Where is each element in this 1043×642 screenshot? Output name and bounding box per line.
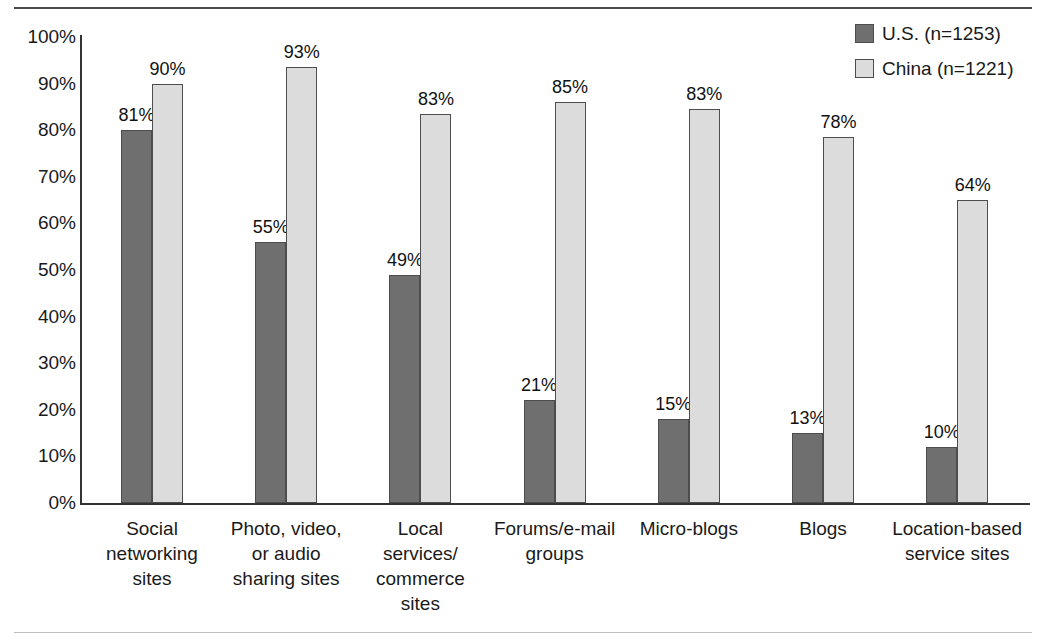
bar-us xyxy=(255,242,286,503)
bar-us xyxy=(389,275,420,503)
category-label: Social networking sites xyxy=(77,516,227,591)
bar-china xyxy=(689,109,720,503)
y-tick-label: 30% xyxy=(4,353,76,372)
y-tick-label: 0% xyxy=(4,493,76,512)
y-tick-label: 40% xyxy=(4,307,76,326)
bar-value-label: 64% xyxy=(943,176,1002,194)
bar-china xyxy=(152,84,183,503)
legend-item: China (n=1221) xyxy=(855,59,1014,78)
category-label: Blogs xyxy=(748,516,898,541)
chart-legend: U.S. (n=1253)China (n=1221) xyxy=(855,24,1014,94)
bar-chart-figure: 100%90%80%70%60%50%40%30%20%10%0% 81%90%… xyxy=(0,0,1043,642)
y-tick-label: 70% xyxy=(4,167,76,186)
legend-label: China (n=1221) xyxy=(882,59,1014,78)
bar-china xyxy=(286,67,317,503)
bar-us xyxy=(658,419,689,503)
bar-china xyxy=(823,137,854,503)
plot-area: 81%90%55%93%49%83%21%85%15%83%13%78%10%6… xyxy=(80,37,1030,503)
legend-swatch-china-icon xyxy=(855,59,874,78)
y-tick-label: 90% xyxy=(4,74,76,93)
bar-value-label: 78% xyxy=(809,113,868,131)
bar-us xyxy=(792,433,823,503)
y-tick-label: 80% xyxy=(4,120,76,139)
y-tick-label: 50% xyxy=(4,260,76,279)
bar-value-label: 85% xyxy=(541,78,600,96)
y-axis-tick-labels: 100%90%80%70%60%50%40%30%20%10%0% xyxy=(0,0,76,642)
legend-label: U.S. (n=1253) xyxy=(882,24,1001,43)
bar-china xyxy=(957,200,988,503)
bar-us xyxy=(926,447,957,503)
bottom-divider-rule xyxy=(14,632,1032,633)
category-label: Location-based service sites xyxy=(882,516,1032,566)
bar-us xyxy=(121,130,152,503)
top-divider-rule xyxy=(14,7,1032,9)
category-label: Photo, video, or audio sharing sites xyxy=(211,516,361,591)
bar-value-label: 83% xyxy=(675,85,734,103)
bar-china xyxy=(555,102,586,503)
category-label: Local services/ commerce sites xyxy=(345,516,495,616)
bar-value-label: 83% xyxy=(406,90,465,108)
bar-china xyxy=(420,114,451,503)
y-tick-label: 60% xyxy=(4,213,76,232)
legend-swatch-us-icon xyxy=(855,24,874,43)
bar-value-label: 90% xyxy=(138,60,197,78)
y-tick-label: 10% xyxy=(4,446,76,465)
y-tick-label: 100% xyxy=(4,27,76,46)
bar-value-label: 93% xyxy=(272,43,331,61)
legend-item: U.S. (n=1253) xyxy=(855,24,1014,43)
y-tick-label: 20% xyxy=(4,400,76,419)
category-label: Forums/e-mail groups xyxy=(480,516,630,566)
bar-us xyxy=(524,400,555,503)
x-axis-line xyxy=(80,503,1030,505)
category-label: Micro-blogs xyxy=(614,516,764,541)
